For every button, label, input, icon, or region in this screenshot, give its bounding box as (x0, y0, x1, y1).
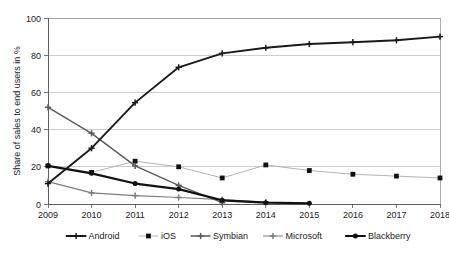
y-tick-label: 60 (31, 88, 41, 98)
legend-item-blackberry[interactable]: Blackberry (346, 231, 411, 241)
legend-item-android[interactable]: Android (67, 231, 120, 241)
legend-label-blackberry: Blackberry (368, 231, 411, 241)
chart-container: 100 80 60 40 20 0 2009 2010 2011 2012 (0, 0, 449, 254)
legend-label-symbian: Symbian (213, 231, 248, 241)
x-tick-label: 2010 (82, 210, 102, 220)
y-axis-title: Share of sales to end users in % (12, 46, 22, 176)
x-tick-label: 2011 (125, 210, 144, 220)
legend-item-microsoft[interactable]: Microsoft (263, 231, 322, 241)
y-tick-label: 80 (31, 51, 41, 61)
legend-label-android: Android (89, 231, 120, 241)
legend-label-microsoft: Microsoft (285, 231, 322, 241)
data-point-ios-2016 (350, 172, 355, 177)
legend-marker-symbian (198, 233, 204, 239)
y-tick-label: 100 (26, 14, 41, 24)
y-axis-ticks (44, 18, 48, 204)
legend-item-ios[interactable]: iOS (139, 231, 176, 241)
x-tick-label: 2015 (299, 210, 319, 220)
data-point-blackberry-2009 (46, 163, 51, 168)
data-point-blackberry-2011 (133, 181, 138, 186)
x-tick-label: 2013 (212, 210, 232, 220)
data-point-blackberry-2015 (307, 201, 312, 206)
legend-marker-ios (146, 234, 151, 239)
legend-marker-android (73, 233, 79, 239)
legend-label-ios: iOS (161, 231, 176, 241)
data-point-blackberry-2014 (263, 200, 268, 205)
x-axis-ticks (48, 204, 440, 208)
data-point-ios-2013 (220, 176, 225, 181)
legend-marker-microsoft (270, 233, 276, 239)
data-point-ios-2015 (307, 168, 312, 173)
x-tick-label: 2016 (343, 210, 363, 220)
x-tick-label: 2017 (386, 210, 406, 220)
data-point-ios-2014 (263, 163, 268, 168)
x-tick-label: 2009 (38, 210, 58, 220)
y-tick-label: 20 (31, 162, 41, 172)
x-axis-tick-labels: 2009 2010 2011 2012 2013 2014 2015 2016 … (38, 210, 449, 220)
data-point-ios-2018 (438, 176, 443, 181)
chart-legend: AndroidiOSSymbianMicrosoftBlackberry (67, 231, 411, 241)
data-point-ios-2012 (176, 164, 181, 169)
y-tick-label: 0 (36, 200, 41, 210)
data-point-blackberry-2010 (89, 171, 94, 176)
x-tick-label: 2014 (256, 210, 276, 220)
data-point-blackberry-2013 (220, 198, 225, 203)
x-tick-label: 2012 (169, 210, 189, 220)
data-point-blackberry-2012 (176, 187, 181, 192)
line-chart: 100 80 60 40 20 0 2009 2010 2011 2012 (0, 0, 449, 254)
legend-marker-blackberry (353, 234, 358, 239)
data-point-ios-2017 (394, 174, 399, 179)
y-tick-label: 40 (31, 125, 41, 135)
x-tick-label: 2018 (430, 210, 449, 220)
legend-item-symbian[interactable]: Symbian (191, 231, 248, 241)
y-axis-tick-labels: 100 80 60 40 20 0 (26, 14, 41, 210)
